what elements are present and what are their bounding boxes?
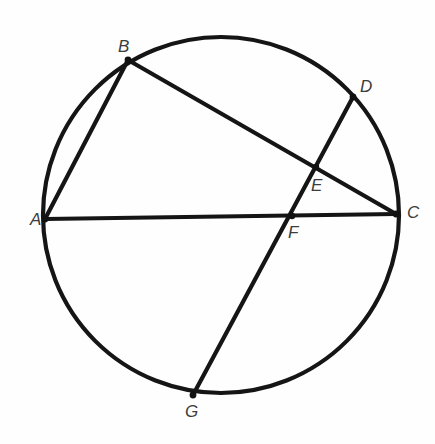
geometry-canvas [0, 0, 435, 444]
geometry-diagram: A B C D E F G [0, 0, 435, 444]
vertex-dot-d [350, 94, 357, 101]
vertex-dot-g [190, 392, 197, 399]
chord-ac [45, 214, 396, 219]
vertex-dot-c [393, 211, 400, 218]
point-label-e: E [311, 177, 323, 194]
point-label-d: D [360, 78, 372, 95]
point-label-a: A [30, 211, 42, 228]
vertex-dot-a [42, 216, 49, 223]
point-label-f: F [288, 224, 299, 241]
point-label-b: B [118, 38, 130, 55]
vertex-dot-e [313, 164, 319, 170]
vertex-dot-f [289, 213, 295, 219]
vertex-dot-b [125, 57, 132, 64]
chord-bc [128, 60, 396, 214]
chord-ab [45, 60, 128, 219]
point-label-g: G [185, 403, 198, 420]
point-label-c: C [407, 204, 419, 221]
